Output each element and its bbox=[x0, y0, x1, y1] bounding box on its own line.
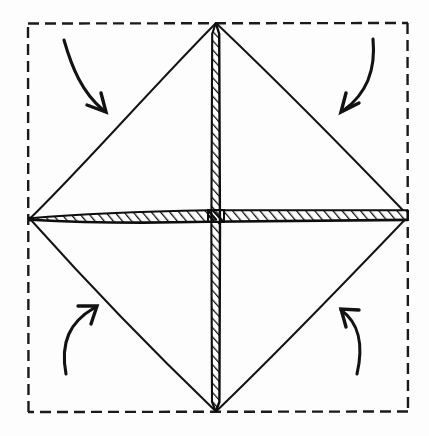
diagram-canvas bbox=[0, 0, 429, 436]
origami-fold-diagram: Origami folding diagram Hand-drawn squar… bbox=[0, 0, 429, 436]
outline-left-edge bbox=[28, 23, 29, 412]
